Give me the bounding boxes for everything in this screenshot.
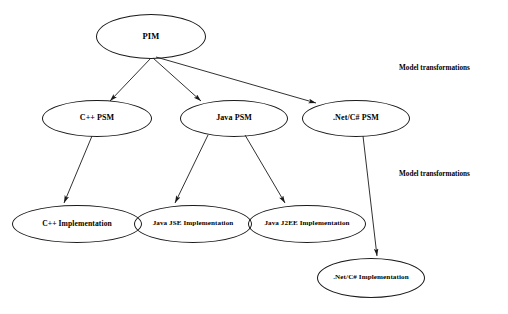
annotation-model-transformations-lower: Model transformations: [399, 170, 470, 178]
annotation-model-transformations-upper: Model transformations: [399, 64, 470, 72]
node-j2ee_impl[interactable]: Java J2EE Implementation: [248, 205, 366, 243]
edge-net-psm-to-impl: [363, 136, 377, 256]
node-cpp_impl[interactable]: C++ Implementation: [12, 205, 142, 243]
edge-cpp-psm-to-impl: [64, 136, 92, 203]
node-label-java_psm: Java PSM: [216, 114, 252, 122]
node-label-net_psm: .Net/C# PSM: [333, 114, 379, 122]
node-label-jse_impl: Java JSE Implementation: [153, 220, 234, 227]
edge-pim-to-net-psm: [156, 57, 316, 103]
node-jse_impl[interactable]: Java JSE Implementation: [134, 205, 252, 243]
edge-pim-to-cpp-psm: [110, 58, 151, 101]
node-java_psm[interactable]: Java PSM: [180, 100, 288, 137]
diagram-canvas: PIMC++ PSMJava PSM.Net/C# PSMC++ Impleme…: [0, 0, 508, 314]
node-label-cpp_impl: C++ Implementation: [42, 220, 112, 228]
node-cpp_psm[interactable]: C++ PSM: [42, 100, 152, 137]
edge-pim-to-java-psm: [153, 58, 201, 101]
node-net_psm[interactable]: .Net/C# PSM: [302, 100, 410, 137]
node-pim[interactable]: PIM: [96, 14, 206, 59]
edge-java-psm-to-j2ee: [245, 135, 285, 203]
node-label-net_impl: .Net/C# Implementation: [333, 274, 409, 281]
node-label-cpp_psm: C++ PSM: [80, 114, 114, 122]
diagram-edges: [0, 0, 508, 314]
node-label-pim: PIM: [143, 32, 160, 41]
edge-java-psm-to-jse: [175, 135, 208, 203]
node-net_impl[interactable]: .Net/C# Implementation: [317, 258, 425, 298]
node-label-j2ee_impl: Java J2EE Implementation: [264, 220, 349, 227]
